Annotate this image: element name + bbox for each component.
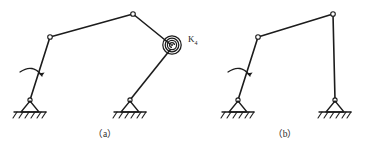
mechanism-diagram-canvas: K 4 <box>0 0 366 152</box>
spring-label-subscript: 4 <box>195 40 198 46</box>
panel-b-joint-upper-left <box>256 35 261 40</box>
panel-b-support-triangle-right <box>326 101 344 112</box>
panel-b-support-right <box>318 98 351 118</box>
panel-a-caption: （a） <box>93 128 117 139</box>
panel-b-input-rotation-arrow <box>228 68 253 76</box>
panel-b: （b） <box>221 12 351 139</box>
panel-a-support-left <box>13 98 46 118</box>
panel-b-caption: （b） <box>273 128 298 139</box>
panel-a-ground-hatch-right <box>113 112 146 118</box>
panel-b-coupler-link <box>258 14 333 37</box>
panel-a-support-triangle-left <box>21 101 39 112</box>
panel-a-spring-label: K 4 <box>188 34 198 46</box>
panel-b-ground-hatch-left <box>221 112 254 118</box>
panel-b-joint-top <box>331 12 336 17</box>
panel-a-rocker-link <box>130 50 170 100</box>
panel-a-input-rotation-arrow <box>20 68 45 76</box>
spring-center-dot <box>171 44 173 46</box>
panel-a-ground-hatch-left <box>13 112 46 118</box>
panel-a-support-right <box>113 98 146 118</box>
panel-a-joint-upper-left <box>48 35 53 40</box>
panel-a-support-triangle-right <box>121 101 139 112</box>
panel-b-rocker-link <box>333 14 335 100</box>
panel-a-joint-top <box>131 12 136 17</box>
panel-b-support-triangle-left <box>229 101 247 112</box>
mechanism-figure: K 4 <box>0 0 366 152</box>
panel-b-support-left <box>221 98 254 118</box>
panel-a: K 4 <box>13 12 198 139</box>
panel-a-coupler-link <box>50 14 133 37</box>
panel-a-torsion-spring <box>163 36 181 54</box>
panel-b-ground-hatch-right <box>318 112 351 118</box>
